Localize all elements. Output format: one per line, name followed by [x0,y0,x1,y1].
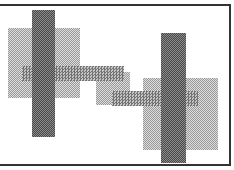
left-dark-bar [32,10,55,137]
right-dark-bar [161,33,186,163]
